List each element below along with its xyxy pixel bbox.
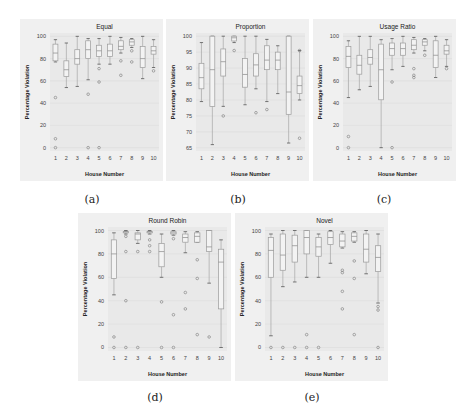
- y-tick-label: 100: [37, 33, 46, 39]
- x-tick-label: 8: [423, 155, 426, 161]
- boxplot-round-robin: 020406080100Round RobinHouse NumberPerce…: [78, 213, 231, 381]
- x-tick-label: 3: [76, 155, 79, 161]
- box-iqr: [243, 59, 248, 88]
- box-iqr: [357, 55, 362, 74]
- box-iqr: [64, 61, 69, 77]
- y-tick-label: 0: [258, 344, 261, 350]
- y-tick-label: 80: [186, 97, 192, 103]
- y-tick-label: 75: [186, 113, 192, 119]
- x-tick-label: 7: [265, 155, 268, 161]
- x-axis-label: House Number: [231, 171, 271, 177]
- y-tick-label: 80: [333, 56, 339, 62]
- x-tick-label: 4: [87, 155, 90, 161]
- box-iqr: [159, 243, 164, 266]
- chart-title-usage-ratio: Usage Ratio: [380, 23, 416, 31]
- x-tick-label: 3: [222, 155, 225, 161]
- x-axis-label: House Number: [378, 171, 418, 177]
- x-tick-label: 8: [276, 155, 279, 161]
- x-tick-label: 9: [141, 155, 144, 161]
- box-iqr: [286, 36, 291, 114]
- x-axis-label: House Number: [305, 371, 345, 377]
- y-tick-label: 60: [333, 78, 339, 84]
- box-iqr: [340, 234, 345, 247]
- x-tick-label: 1: [347, 155, 350, 161]
- boxplot-proportion: 65707580859095100ProportionHouse NumberP…: [166, 19, 309, 181]
- x-tick-label: 6: [108, 155, 111, 161]
- x-tick-label: 4: [380, 155, 383, 161]
- x-tick-label: 1: [269, 355, 272, 361]
- y-tick-label: 95: [186, 49, 192, 55]
- x-tick-label: 8: [353, 355, 356, 361]
- box-iqr: [183, 234, 188, 242]
- y-tick-label: 60: [255, 274, 261, 280]
- y-tick-label: 20: [40, 122, 46, 128]
- x-tick-label: 10: [296, 155, 302, 161]
- chart-title-novel: Novel: [316, 217, 333, 224]
- box-iqr: [140, 46, 145, 67]
- x-tick-label: 6: [172, 355, 175, 361]
- caption-c: (c): [364, 193, 404, 206]
- x-tick-label: 9: [208, 355, 211, 361]
- box-iqr: [151, 46, 156, 54]
- box-iqr: [400, 43, 405, 55]
- box-iqr: [107, 44, 112, 56]
- box-iqr: [218, 249, 223, 309]
- box-iqr: [206, 231, 211, 252]
- y-tick-label: 40: [255, 298, 261, 304]
- x-tick-label: 7: [184, 355, 187, 361]
- x-tick-label: 5: [160, 355, 163, 361]
- x-tick-label: 10: [150, 155, 156, 161]
- box-iqr: [275, 52, 280, 70]
- box-iqr: [352, 233, 357, 241]
- y-tick-label: 100: [330, 33, 339, 39]
- chart-title-equal: Equal: [96, 23, 113, 31]
- y-tick-label: 80: [40, 56, 46, 62]
- x-tick-label: 6: [401, 155, 404, 161]
- x-tick-label: 1: [112, 355, 115, 361]
- chart-panel-round-robin: 020406080100Round RobinHouse NumberPerce…: [78, 213, 231, 381]
- x-tick-label: 9: [287, 155, 290, 161]
- x-tick-label: 10: [375, 355, 381, 361]
- x-tick-label: 4: [305, 355, 308, 361]
- y-tick-label: 100: [252, 228, 261, 234]
- y-tick-label: 0: [101, 344, 104, 350]
- y-tick-label: 85: [186, 81, 192, 87]
- x-tick-label: 6: [329, 355, 332, 361]
- x-tick-label: 10: [218, 355, 224, 361]
- box-iqr: [75, 50, 80, 64]
- box-iqr: [292, 235, 297, 262]
- box-iqr: [53, 44, 58, 61]
- x-tick-label: 5: [391, 155, 394, 161]
- box-iqr: [232, 36, 237, 41]
- caption-d: (d): [135, 391, 175, 404]
- y-tick-label: 0: [336, 145, 339, 151]
- box-iqr: [264, 46, 269, 70]
- x-tick-label: 6: [254, 155, 257, 161]
- chart-title-proportion: Proportion: [236, 23, 266, 31]
- x-axis-label: House Number: [148, 371, 188, 377]
- y-tick-label: 20: [333, 122, 339, 128]
- y-tick-label: 40: [40, 100, 46, 106]
- x-tick-label: 10: [443, 155, 449, 161]
- box-iqr: [210, 36, 215, 106]
- y-axis-label: Percentage Violation: [317, 64, 323, 119]
- x-tick-label: 9: [365, 355, 368, 361]
- x-tick-label: 4: [233, 155, 236, 161]
- box-iqr: [199, 63, 204, 89]
- y-tick-label: 20: [255, 321, 261, 327]
- y-tick-label: 80: [98, 251, 104, 257]
- x-tick-label: 3: [136, 355, 139, 361]
- x-axis-label: House Number: [85, 171, 125, 177]
- y-tick-label: 80: [255, 251, 261, 257]
- x-tick-label: 9: [434, 155, 437, 161]
- y-axis-label: Percentage Violation: [24, 64, 30, 119]
- chart-panel-equal: 020406080100EqualHouse NumberPercentage …: [20, 19, 163, 181]
- y-tick-label: 60: [98, 274, 104, 280]
- box-iqr: [280, 234, 285, 270]
- x-tick-label: 1: [54, 155, 57, 161]
- box-iqr: [195, 233, 200, 242]
- x-tick-label: 5: [244, 155, 247, 161]
- x-tick-label: 2: [211, 155, 214, 161]
- y-tick-label: 100: [183, 33, 192, 39]
- chart-panel-novel: 020406080100NovelHouse NumberPercentage …: [235, 213, 388, 381]
